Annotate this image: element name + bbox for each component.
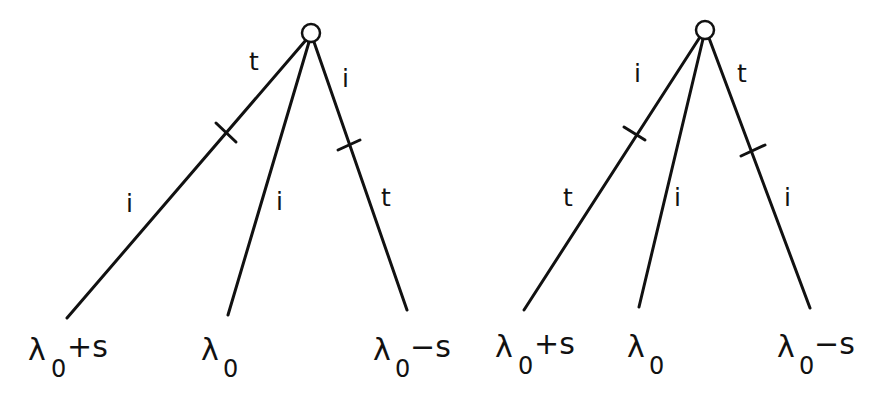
- minus-s: −s: [410, 329, 451, 364]
- right-label-t-upper-right: t: [737, 59, 747, 88]
- right-tree-branch-right: [709, 38, 810, 308]
- right-tree-branch-middle: [639, 39, 703, 307]
- left-tree-branch-left: [67, 40, 306, 318]
- left-label-t-lower-right: t: [381, 183, 391, 212]
- lambda-symbol: λ: [201, 332, 219, 367]
- right-label-i-upper-left: i: [634, 59, 641, 88]
- subscript-zero: 0: [649, 352, 664, 380]
- left-tree: [67, 24, 407, 318]
- subscript-zero: 0: [51, 355, 66, 383]
- right-tree-branch-left: [524, 37, 700, 310]
- lambda-symbol: λ: [28, 332, 46, 367]
- right-label-i-lower-mid: i: [674, 183, 681, 212]
- lambda-symbol: λ: [777, 329, 795, 364]
- lambda-symbol: λ: [495, 329, 513, 364]
- plus-s: +s: [67, 329, 108, 364]
- left-label-i-lower-mid: i: [276, 187, 283, 216]
- lambda-symbol: λ: [627, 329, 645, 364]
- right-tree-root-node: [696, 21, 714, 39]
- right-bottom-label-center: λ 0: [627, 329, 664, 380]
- left-bottom-label-plus: λ 0 +s: [28, 329, 108, 383]
- minus-s: −s: [814, 326, 855, 361]
- left-label-i-upper-right: i: [342, 64, 349, 93]
- diagram-canvas: t i i i t λ 0 +s λ 0 λ 0 −s i t t i i: [0, 0, 879, 397]
- left-label-t-upper-left: t: [249, 47, 259, 76]
- left-tree-branch-right: [314, 42, 407, 310]
- right-label-i-lower-right: i: [784, 183, 791, 212]
- plus-s: +s: [534, 326, 575, 361]
- subscript-zero: 0: [223, 355, 238, 383]
- left-bottom-label-center: λ 0: [201, 332, 238, 383]
- subscript-zero: 0: [395, 355, 410, 383]
- right-bottom-label-plus: λ 0 +s: [495, 326, 575, 380]
- subscript-zero: 0: [518, 352, 533, 380]
- right-label-t-lower-left: t: [563, 183, 573, 212]
- subscript-zero: 0: [799, 352, 814, 380]
- left-label-i-lower-left: i: [126, 189, 133, 218]
- left-tree-root-node: [302, 24, 320, 42]
- left-bottom-label-minus: λ 0 −s: [373, 329, 451, 383]
- right-bottom-label-minus: λ 0 −s: [777, 326, 855, 380]
- right-tree-labels: i t t i i λ 0 +s λ 0 λ 0 −s: [495, 59, 855, 380]
- lambda-symbol: λ: [373, 332, 391, 367]
- right-tree: [524, 21, 810, 310]
- left-tree-labels: t i i i t λ 0 +s λ 0 λ 0 −s: [28, 47, 451, 383]
